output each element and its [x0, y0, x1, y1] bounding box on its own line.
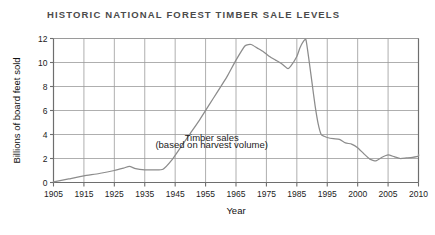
x-tick-label: 1925: [105, 189, 124, 199]
chart-annotation: (based on harvest volume): [155, 139, 267, 150]
y-tick-label: 0: [43, 178, 48, 188]
x-tick-label: 1905: [44, 189, 63, 199]
x-tick-label: 1995: [318, 189, 337, 199]
y-tick-label: 6: [43, 106, 48, 116]
x-tick-label: 1935: [135, 189, 154, 199]
x-tick-label: 2000: [348, 189, 367, 199]
axes-group: [50, 39, 419, 187]
x-tick-label: 1965: [227, 189, 246, 199]
x-tick-label: 1975: [257, 189, 276, 199]
y-tick-label: 4: [43, 130, 48, 140]
y-tick-label: 2: [43, 154, 48, 164]
tick-labels-group: 0246810121905191519251935194519551965197…: [11, 34, 429, 216]
chart-plot-area: 0246810121905191519251935194519551965197…: [0, 0, 435, 235]
x-axis-title: Year: [226, 205, 245, 216]
y-tick-label: 8: [43, 82, 48, 92]
x-tick-label: 1955: [196, 189, 215, 199]
x-tick-label: 2010: [409, 189, 428, 199]
y-axis-title: Billions of board feet sold: [11, 57, 22, 163]
x-tick-label: 1945: [166, 189, 185, 199]
timber-sales-chart: HISTORIC NATIONAL FOREST TIMBER SALE LEV…: [0, 0, 435, 235]
x-tick-label: 1915: [74, 189, 93, 199]
x-tick-label: 2005: [379, 189, 398, 199]
y-tick-label: 10: [38, 58, 48, 68]
y-tick-label: 12: [38, 34, 48, 44]
x-tick-label: 1985: [287, 189, 306, 199]
